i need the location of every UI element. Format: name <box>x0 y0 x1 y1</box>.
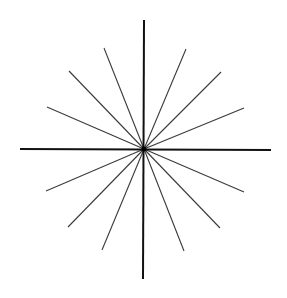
ray-lower-left-2 <box>68 149 144 227</box>
ray-lower-right-1 <box>144 149 244 192</box>
ray-lower-right-3 <box>144 149 184 251</box>
ray-upper-left-2 <box>69 71 144 149</box>
ray-upper-right-2 <box>144 72 221 149</box>
center-hub <box>142 147 147 152</box>
starburst-diagram <box>0 0 287 298</box>
ray-lower-right-2 <box>144 149 220 228</box>
